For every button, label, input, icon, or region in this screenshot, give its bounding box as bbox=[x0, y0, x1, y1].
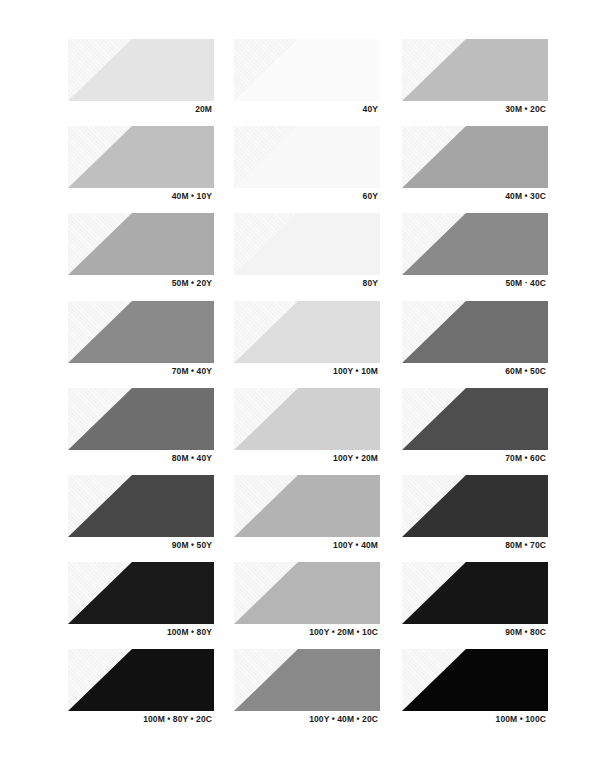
color-swatch bbox=[234, 126, 380, 188]
color-swatch bbox=[402, 301, 548, 363]
swatch-cell: 20M bbox=[68, 39, 214, 119]
swatch-cell: 80M • 70C bbox=[402, 475, 548, 555]
tint-parallelogram bbox=[234, 126, 380, 188]
tint-parallelogram bbox=[234, 475, 380, 537]
color-swatch bbox=[68, 39, 214, 101]
swatch-cell: 90M • 80C bbox=[402, 562, 548, 642]
swatch-cell: 60Y bbox=[234, 126, 380, 206]
color-swatch bbox=[402, 388, 548, 450]
color-swatch bbox=[234, 301, 380, 363]
color-swatch bbox=[68, 126, 214, 188]
tint-chart-sheet: 20M40Y30M • 20C40M • 10Y60Y40M • 30C50M … bbox=[0, 0, 593, 778]
swatch-label: 80M • 40Y bbox=[172, 453, 212, 463]
tint-parallelogram bbox=[234, 301, 380, 363]
swatch-cell: 100Y • 10M bbox=[234, 301, 380, 381]
tint-parallelogram bbox=[402, 126, 548, 188]
tint-parallelogram bbox=[402, 388, 548, 450]
swatch-label: 100Y • 40M • 20C bbox=[309, 714, 378, 724]
swatch-cell: 100Y • 40M bbox=[234, 475, 380, 555]
swatch-cell: 100M • 80Y • 20C bbox=[68, 649, 214, 729]
swatch-label: 100M • 100C bbox=[496, 714, 546, 724]
swatch-cell: 40M • 30C bbox=[402, 126, 548, 206]
tint-parallelogram bbox=[234, 388, 380, 450]
tint-parallelogram bbox=[68, 301, 214, 363]
swatch-cell: 50M · 40C bbox=[402, 213, 548, 293]
swatch-cell: 90M • 50Y bbox=[68, 475, 214, 555]
swatch-label: 40Y bbox=[363, 104, 378, 114]
swatch-cell: 70M • 40Y bbox=[68, 301, 214, 381]
color-swatch bbox=[68, 562, 214, 624]
tint-parallelogram bbox=[234, 562, 380, 624]
color-swatch bbox=[234, 562, 380, 624]
color-swatch bbox=[402, 213, 548, 275]
color-swatch bbox=[68, 475, 214, 537]
swatch-label: 100Y • 10M bbox=[333, 366, 378, 376]
swatch-label: 90M • 50Y bbox=[172, 540, 212, 550]
swatch-label: 40M • 30C bbox=[505, 191, 546, 201]
color-swatch bbox=[402, 649, 548, 711]
swatch-cell: 40Y bbox=[234, 39, 380, 119]
swatch-label: 20M bbox=[195, 104, 212, 114]
swatch-label: 90M • 80C bbox=[505, 627, 546, 637]
swatch-cell: 100Y • 40M • 20C bbox=[234, 649, 380, 729]
swatch-label: 80Y bbox=[363, 278, 378, 288]
tint-parallelogram bbox=[402, 39, 548, 101]
swatch-label: 60Y bbox=[363, 191, 378, 201]
swatch-cell: 100M • 100C bbox=[402, 649, 548, 729]
color-swatch bbox=[402, 39, 548, 101]
swatch-label: 70M • 60C bbox=[505, 453, 546, 463]
swatch-cell: 80Y bbox=[234, 213, 380, 293]
tint-parallelogram bbox=[402, 562, 548, 624]
swatch-cell: 80M • 40Y bbox=[68, 388, 214, 468]
swatch-label: 100Y • 40M bbox=[333, 540, 378, 550]
tint-parallelogram bbox=[68, 213, 214, 275]
swatch-label: 40M • 10Y bbox=[172, 191, 212, 201]
tint-parallelogram bbox=[234, 213, 380, 275]
swatch-cell: 50M • 20Y bbox=[68, 213, 214, 293]
swatch-label: 100M • 80Y bbox=[167, 627, 212, 637]
swatch-label: 50M • 20Y bbox=[172, 278, 212, 288]
swatch-label: 50M · 40C bbox=[505, 278, 546, 288]
swatch-cell: 100Y • 20M bbox=[234, 388, 380, 468]
color-swatch bbox=[68, 301, 214, 363]
tint-parallelogram bbox=[68, 39, 214, 101]
color-swatch bbox=[402, 562, 548, 624]
swatch-cell: 100M • 80Y bbox=[68, 562, 214, 642]
swatch-cell: 100Y • 20M • 10C bbox=[234, 562, 380, 642]
swatch-cell: 30M • 20C bbox=[402, 39, 548, 119]
swatch-label: 70M • 40Y bbox=[172, 366, 212, 376]
color-swatch bbox=[234, 649, 380, 711]
color-swatch bbox=[234, 388, 380, 450]
tint-parallelogram bbox=[402, 649, 548, 711]
color-swatch bbox=[402, 126, 548, 188]
color-swatch bbox=[234, 475, 380, 537]
tint-parallelogram bbox=[68, 126, 214, 188]
tint-parallelogram bbox=[68, 562, 214, 624]
tint-parallelogram bbox=[402, 213, 548, 275]
color-swatch bbox=[68, 213, 214, 275]
swatch-label: 100Y • 20M • 10C bbox=[309, 627, 378, 637]
color-swatch bbox=[68, 649, 214, 711]
tint-parallelogram bbox=[234, 39, 380, 101]
tint-parallelogram bbox=[402, 475, 548, 537]
color-swatch bbox=[402, 475, 548, 537]
tint-parallelogram bbox=[68, 649, 214, 711]
tint-parallelogram bbox=[68, 388, 214, 450]
tint-parallelogram bbox=[234, 649, 380, 711]
swatch-cell: 60M • 50C bbox=[402, 301, 548, 381]
color-swatch bbox=[234, 213, 380, 275]
swatch-label: 30M • 20C bbox=[505, 104, 546, 114]
tint-parallelogram bbox=[402, 301, 548, 363]
swatch-label: 100Y • 20M bbox=[333, 453, 378, 463]
swatch-label: 80M • 70C bbox=[505, 540, 546, 550]
tint-parallelogram bbox=[68, 475, 214, 537]
swatch-cell: 70M • 60C bbox=[402, 388, 548, 468]
swatch-cell: 40M • 10Y bbox=[68, 126, 214, 206]
color-swatch bbox=[68, 388, 214, 450]
swatch-label: 60M • 50C bbox=[505, 366, 546, 376]
color-swatch bbox=[234, 39, 380, 101]
swatch-label: 100M • 80Y • 20C bbox=[143, 714, 212, 724]
